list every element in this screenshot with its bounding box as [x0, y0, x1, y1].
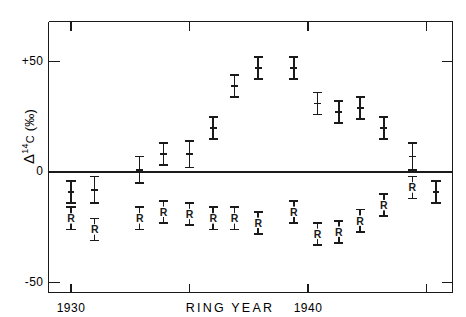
data-point	[135, 157, 144, 184]
data-point: R	[313, 223, 322, 245]
series-label-glyph: R	[254, 217, 262, 229]
series-R: RRRRRRRRRRRRRR	[66, 176, 416, 245]
data-point	[356, 97, 365, 119]
y-tick-label--50: -50	[0, 275, 44, 289]
data-point: R	[334, 221, 343, 243]
series-label-glyph: R	[160, 206, 168, 218]
data-point	[379, 117, 388, 139]
series-label-glyph: R	[290, 206, 298, 218]
y-axis-units: (‰)	[22, 109, 37, 131]
data-point: R	[254, 212, 263, 234]
plot-frame	[49, 22, 453, 293]
series-label-glyph: R	[209, 212, 217, 224]
data-point: R	[230, 207, 239, 229]
x-tick-label-1930: 1930	[31, 301, 111, 315]
data-point: R	[209, 207, 218, 229]
series-label-glyph: R	[335, 226, 343, 238]
y-axis-superscript: 14	[20, 143, 30, 153]
series-label-glyph: R	[380, 199, 388, 211]
series-label-glyph: R	[356, 215, 364, 227]
series-label-glyph: R	[91, 223, 99, 235]
data-point	[90, 176, 99, 203]
x-axis-title: RING YEAR	[150, 301, 310, 315]
y-axis-label: Δ14C (‰)	[20, 77, 37, 197]
data-point	[334, 101, 343, 123]
data-point	[431, 181, 440, 203]
series-label-glyph: R	[231, 212, 239, 224]
data-point	[230, 75, 239, 97]
data-point: R	[185, 203, 194, 225]
data-point: R	[408, 176, 417, 198]
series-label-glyph: R	[408, 181, 416, 193]
x-axis-ticks	[71, 22, 427, 293]
series-label-glyph: R	[136, 212, 144, 224]
data-point: R	[289, 201, 298, 223]
data-point	[66, 181, 75, 203]
data-point: R	[90, 218, 99, 240]
data-point	[185, 141, 194, 168]
data-point	[313, 92, 322, 114]
plot-canvas: RRRRRRRRRRRRRR	[0, 0, 466, 317]
data-point: R	[66, 207, 75, 229]
data-point	[254, 57, 263, 79]
data-point: R	[379, 194, 388, 216]
series-label-glyph: R	[186, 208, 194, 220]
delta-symbol: Δ	[20, 154, 37, 164]
carbon-14-ring-year-chart: Δ14C (‰) RRRRRRRRRRRRRR +500-5019301940R…	[0, 0, 466, 317]
data-point	[408, 143, 417, 170]
series-label-glyph: R	[67, 212, 75, 224]
y-axis-element: C	[24, 135, 36, 143]
data-point: R	[135, 207, 144, 229]
data-point	[159, 143, 168, 165]
series-label-glyph: R	[314, 228, 322, 240]
data-point: R	[356, 210, 365, 232]
data-point	[289, 57, 298, 79]
y-tick-label-+50: +50	[0, 54, 44, 68]
data-point	[209, 117, 218, 139]
y-tick-label-0: 0	[0, 164, 44, 178]
series-unlabeled	[66, 57, 440, 203]
data-point: R	[159, 201, 168, 223]
